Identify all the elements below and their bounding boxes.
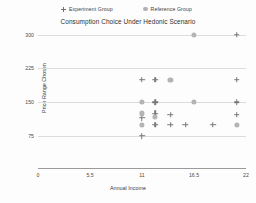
- data-point-reference: [191, 100, 196, 105]
- data-point-reference: [191, 32, 196, 37]
- data-point-reference: [153, 114, 158, 119]
- legend-label-reference-group: Reference Group: [151, 6, 192, 12]
- gridline-y: [38, 35, 246, 36]
- data-point-reference: [168, 77, 173, 82]
- y-axis-tick-label: 150: [25, 99, 34, 105]
- data-point-experiment: [234, 112, 240, 118]
- data-point-experiment: [168, 112, 174, 118]
- y-axis-tick-label: 225: [25, 65, 34, 71]
- chart-canvas: Experiment Group Reference Group Consump…: [0, 0, 256, 203]
- data-point-experiment: [139, 133, 145, 139]
- x-axis-title: Annual Income: [0, 185, 256, 191]
- data-point-experiment: [152, 99, 158, 105]
- y-axis-tick-label: 75: [28, 133, 34, 139]
- x-axis-line: [38, 168, 246, 169]
- legend-label-experiment-group: Experiment Group: [69, 6, 113, 12]
- data-point-reference: [139, 122, 144, 127]
- data-point-experiment: [210, 122, 216, 128]
- circle-marker-icon: [143, 7, 148, 12]
- gridline-y: [38, 68, 246, 69]
- data-point-experiment: [152, 122, 158, 128]
- data-point-experiment: [183, 122, 189, 128]
- data-point-reference: [139, 100, 144, 105]
- x-axis-tick-label: 5.5: [86, 172, 93, 178]
- data-point-experiment: [234, 99, 240, 105]
- y-axis-title: Price Range Chosen: [41, 38, 47, 138]
- data-point-experiment: [234, 32, 240, 38]
- legend-item-reference-group: Reference Group: [143, 6, 192, 12]
- plot-area: Price Range Chosen 75150225300: [38, 30, 246, 145]
- x-axis-tick-label: 11: [139, 172, 144, 178]
- data-point-experiment: [139, 115, 145, 121]
- y-axis-tick-label: 300: [25, 32, 34, 38]
- x-axis-tick-label: 16.5: [189, 172, 199, 178]
- data-point-experiment: [168, 122, 174, 128]
- plus-marker-icon: [61, 7, 66, 12]
- data-point-experiment: [234, 77, 240, 83]
- chart-legend: Experiment Group Reference Group: [0, 6, 256, 18]
- chart-title: Consumption Choice Under Hedonic Scenari…: [0, 18, 256, 25]
- data-point-experiment: [152, 77, 158, 83]
- data-point-reference: [234, 122, 239, 127]
- x-axis-tick-label: 22: [243, 172, 249, 178]
- data-point-experiment: [139, 77, 145, 83]
- x-axis-tick-label: 0: [37, 172, 40, 178]
- legend-item-experiment-group: Experiment Group: [61, 6, 113, 12]
